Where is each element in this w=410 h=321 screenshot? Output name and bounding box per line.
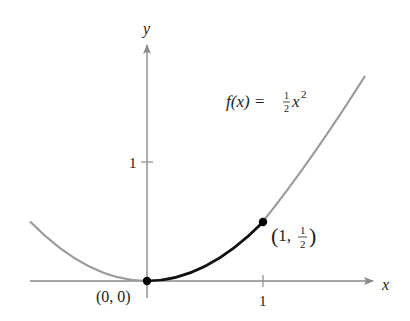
y-tick-label-1: 1 xyxy=(129,155,137,171)
chart-svg: x y 1 1 (0, 0) (1, 1 2 ) f(x) = 1 2 xyxy=(0,0,410,321)
function-frac-num: 1 xyxy=(284,90,289,101)
highlighted-arc xyxy=(147,222,263,281)
function-frac-den: 2 xyxy=(284,103,289,114)
function-label: f(x) = 1 2 x 2 xyxy=(226,88,307,114)
parabola-figure: x y 1 1 (0, 0) (1, 1 2 ) f(x) = 1 2 xyxy=(0,0,410,321)
point-label-suffix: ) xyxy=(309,223,316,248)
point-label-prefix: (1, xyxy=(271,223,291,248)
point-one-half-label: (1, 1 2 ) xyxy=(271,223,316,250)
parabola-curve-right xyxy=(263,76,365,222)
point-label-frac-den: 2 xyxy=(300,238,306,250)
x-axis-label: x xyxy=(381,276,389,293)
point-label-x: 1, xyxy=(278,226,291,245)
y-axis-label: y xyxy=(141,20,151,38)
function-exp: 2 xyxy=(301,88,307,100)
function-lhs: f(x) = xyxy=(226,92,265,111)
x-tick-label-1: 1 xyxy=(259,293,267,309)
point-label-frac-num: 1 xyxy=(300,224,306,236)
point-one-half xyxy=(259,218,267,226)
origin-label: (0, 0) xyxy=(96,288,131,306)
function-var: x xyxy=(291,92,300,111)
point-origin xyxy=(143,277,151,285)
